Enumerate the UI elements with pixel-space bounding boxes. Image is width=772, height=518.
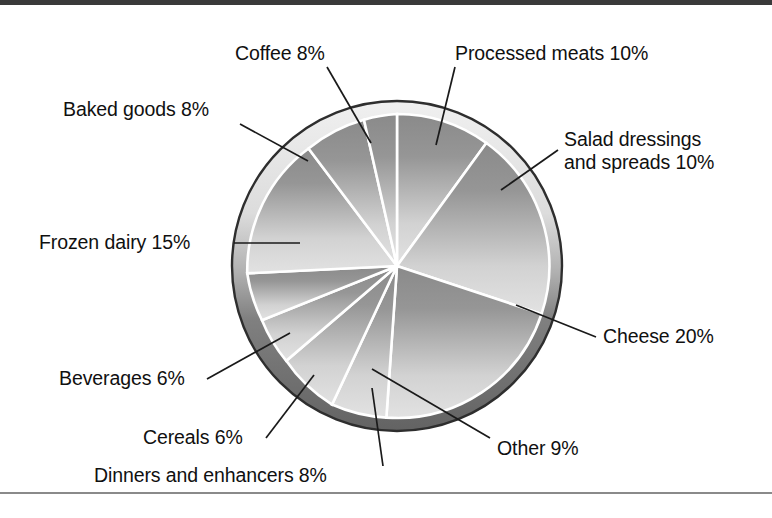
pie-label-other: Other 9% [497, 437, 579, 460]
pie-chart-figure: Coffee 8% Processed meats 10% Baked good… [0, 0, 772, 518]
pie-label-cheese: Cheese 20% [603, 325, 714, 348]
pie-label-dinners-and-enhancers: Dinners and enhancers 8% [94, 464, 327, 487]
pie-chart-graphic [0, 0, 772, 518]
pie-label-frozen-dairy: Frozen dairy 15% [39, 231, 190, 254]
pie-label-salad-dressings: Salad dressings and spreads 10% [564, 128, 764, 174]
pie-label-processed-meats: Processed meats 10% [455, 42, 648, 65]
pie-label-cereals: Cereals 6% [143, 426, 243, 449]
pie-label-salad-dressings-line1: Salad dressings [564, 128, 701, 150]
pie-label-baked-goods: Baked goods 8% [63, 98, 209, 121]
pie-label-salad-dressings-line2: and spreads 10% [564, 151, 714, 173]
pie-label-beverages: Beverages 6% [59, 367, 185, 390]
pie-label-coffee: Coffee 8% [235, 42, 325, 65]
